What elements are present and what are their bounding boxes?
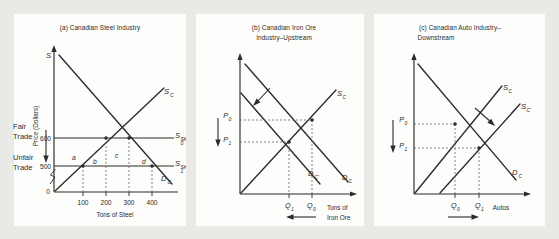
panel-b-demand-shifted-label: D	[308, 169, 314, 178]
panel-c-x-axis-label: Autos	[493, 204, 509, 211]
panel-c-price-label-p1: P	[399, 141, 404, 150]
panel-c-price-label-p0-sub: 0	[405, 120, 408, 126]
panel-b-x-axis-label-line2: Iron Ore	[327, 214, 351, 221]
panel-b-supply-curve-label: S	[337, 89, 342, 98]
panel-c-demand-curve-label-sub: C	[519, 173, 523, 179]
panel-c-price-label-p1-sub: 1	[405, 146, 408, 152]
panel-b-x-axis-arrowhead	[350, 191, 357, 196]
panel-b-price-label-p1: P	[223, 135, 228, 144]
unfair-trade-label-line1: Unfair	[13, 153, 34, 162]
panel-b-demand-curve-initial	[245, 64, 348, 182]
panel-c-point-initial-equilibrium	[453, 122, 457, 126]
panel-b-title-line1: (b) Canadian Iron Ore	[252, 24, 317, 32]
panel-b-point-initial-equilibrium	[310, 118, 314, 122]
unfair-trade-label-line2: Trade	[13, 163, 33, 172]
panel-c-title-line2: Downstream	[418, 34, 455, 41]
panel-b-supply-curve-label-sub: C	[343, 94, 347, 100]
panel-canadian-auto-industry: (c) Canadian Auto Industry– Downstream	[374, 14, 545, 226]
panel-b-demand-curve-label-sub: C	[349, 178, 353, 184]
panel-b-y-axis-arrowhead	[237, 53, 242, 60]
panel-b-demand-curve-label: D	[342, 173, 348, 182]
fair-trade-label-line2: Trade	[13, 132, 33, 141]
panel-c-quantity-right-arrow-icon	[448, 214, 479, 219]
panel-canadian-iron-ore-industry: (b) Canadian Iron Ore Industry–Upstream	[196, 14, 364, 226]
panel-c-x-axis-arrowhead	[524, 191, 531, 196]
panel-b-quantity-left-arrow-icon	[286, 214, 316, 219]
panel-b-chart: (b) Canadian Iron Ore Industry–Upstream	[196, 14, 364, 226]
panel-c-supply-shifted-label-sub: C'	[527, 107, 533, 113]
fair-to-unfair-down-arrow-icon	[43, 130, 48, 163]
fair-trade-label-line1: Fair	[13, 122, 27, 131]
panel-b-quantity-label-q0-sub: 0	[313, 206, 316, 212]
panel-b-price-label-p0: P	[223, 111, 228, 120]
panel-c-quantity-label-q0-sub: 0	[457, 206, 460, 212]
panel-c-price-down-arrow-icon	[390, 120, 395, 153]
panel-b-title-line2: Industry–Upstream	[256, 34, 312, 42]
panel-c-title-line1: (c) Canadian Auto Industry–	[419, 24, 501, 32]
panel-b-demand-shifted-label-sub: C'	[315, 174, 321, 180]
economics-figure: (a) Canadian Steel Industry Price (Dolla…	[0, 0, 559, 239]
panel-c-supply-initial-label: S	[503, 83, 508, 92]
panel-b-price-down-arrow-icon	[215, 118, 220, 147]
panel-c-chart: (c) Canadian Auto Industry– Downstream	[374, 14, 545, 226]
panel-c-quantity-label-q1-sub: 1	[481, 206, 484, 212]
panel-b-point-new-equilibrium	[287, 140, 291, 144]
panel-b-price-label-p1-sub: 1	[229, 140, 232, 146]
panel-c-price-label-p0: P	[399, 115, 404, 124]
panel-c-supply-shift-arrow-icon	[475, 108, 495, 126]
panel-b-x-axis-label-line1: Tons of	[327, 204, 348, 211]
panel-c-point-new-equilibrium	[477, 146, 481, 150]
panel-b-quantity-label-q1-sub: 1	[291, 206, 294, 212]
panel-c-supply-initial-label-sub: C	[509, 88, 513, 94]
panel-c-demand-curve-label: D	[512, 168, 518, 177]
panel-c-y-axis-arrowhead	[411, 53, 416, 60]
panel-b-price-label-p0-sub: 0	[229, 116, 232, 122]
panel-c-supply-shifted-label: S	[521, 102, 526, 111]
panel-b-demand-shift-arrow-icon	[253, 88, 270, 106]
